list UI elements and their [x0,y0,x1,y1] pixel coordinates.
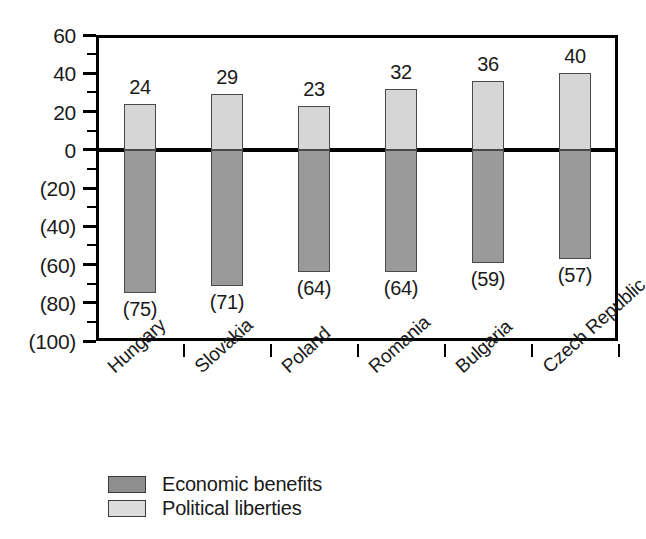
legend-swatch-icon-economic-benefits [108,476,146,493]
bar-economic-benefits [385,150,417,272]
bar-value-label-economic-benefits: (71) [189,292,265,312]
y-axis-label: (100) [28,331,83,352]
bar-value-label-political-liberties: 23 [278,79,350,99]
y-axis-minor-tick [87,168,96,170]
y-axis-tick [83,34,96,37]
bar-economic-benefits [124,150,156,293]
bar-value-label-economic-benefits: (64) [276,278,352,298]
bar-economic-benefits [211,150,243,286]
y-axis-label: 0 [65,140,83,161]
x-axis-tick [270,344,272,357]
y-axis-minor-tick [87,321,96,323]
y-axis-minor-tick [87,283,96,285]
bar-chart: 6040200(20)(40)(60)(80)(100) 24(75)29(71… [0,0,646,539]
y-axis-minor-tick [87,53,96,55]
y-axis-label: 20 [53,102,83,123]
bar-economic-benefits [298,150,330,272]
legend-item-economic-benefits: Economic benefits [108,473,322,495]
y-axis-label: (40) [40,216,83,237]
bar-political-liberties [298,106,330,150]
legend-item-political-liberties: Political liberties [108,497,322,519]
bar-economic-benefits [472,150,504,263]
zero-baseline [96,148,618,152]
bar-economic-benefits [559,150,591,259]
y-axis-label: 40 [53,63,83,84]
y-axis-minor-tick [87,130,96,132]
bar-political-liberties [211,94,243,149]
bar-value-label-economic-benefits: (64) [363,278,439,298]
legend-label-economic-benefits: Economic benefits [162,474,322,494]
x-axis-tick [444,344,446,357]
y-axis-label: 60 [53,25,83,46]
y-axis-tick [83,110,96,113]
bar-value-label-political-liberties: 32 [365,62,437,82]
y-axis-tick [83,148,96,151]
y-axis-minor-tick [87,91,96,93]
bar-value-label-political-liberties: 40 [539,46,611,66]
bar-value-label-economic-benefits: (57) [537,265,613,285]
y-axis-tick [83,72,96,75]
y-axis-tick [83,340,96,343]
y-axis-tick [83,301,96,304]
x-axis-tick [618,344,620,357]
y-axis-minor-tick [87,206,96,208]
y-axis-minor-tick [87,244,96,246]
x-axis-tick [183,344,185,357]
x-axis-tick [531,344,533,357]
y-axis-tick [83,263,96,266]
legend-label-political-liberties: Political liberties [162,498,302,518]
y-axis-tick [83,187,96,190]
legend-swatch-icon-political-liberties [108,500,146,517]
y-axis-label: (80) [40,293,83,314]
bar-value-label-political-liberties: 24 [104,77,176,97]
bar-political-liberties [124,104,156,150]
bar-value-label-economic-benefits: (59) [450,269,526,289]
bar-value-label-economic-benefits: (75) [102,299,178,319]
y-axis-tick [83,225,96,228]
bar-political-liberties [385,89,417,150]
x-axis-tick [357,344,359,357]
y-axis-label: (60) [40,255,83,276]
bar-value-label-political-liberties: 36 [452,54,524,74]
bar-political-liberties [472,81,504,150]
y-axis-label: (20) [40,178,83,199]
bar-political-liberties [559,73,591,150]
legend: Economic benefits Political liberties [108,473,322,521]
bar-value-label-political-liberties: 29 [191,67,263,87]
